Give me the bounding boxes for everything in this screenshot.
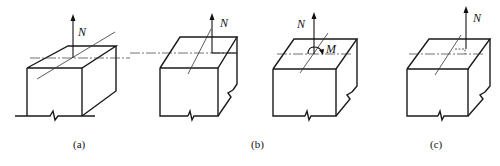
arrowhead-icon xyxy=(464,6,469,13)
eccentricity-offset-dashed xyxy=(455,49,465,54)
moment-label: M xyxy=(325,42,337,56)
force-label: N xyxy=(77,25,87,39)
block-b2-front-face xyxy=(273,69,305,116)
arrowhead-icon xyxy=(71,14,76,21)
block-c-front-face xyxy=(407,69,438,116)
panel-caption: (a) xyxy=(73,138,86,151)
centerline-y xyxy=(188,29,211,74)
force-label: N xyxy=(219,16,229,30)
panel-a: N (a) xyxy=(15,14,130,151)
block-b1-front-face xyxy=(160,68,188,116)
force-label: N xyxy=(296,17,306,31)
block-b2-side-break xyxy=(336,92,352,116)
panel-c: N (c) xyxy=(407,6,490,151)
loaded-blocks-diagram: N (a) N (b) N M xyxy=(0,0,500,166)
panel-caption: (c) xyxy=(430,138,443,151)
panel-b2: N M xyxy=(273,12,357,120)
block-c-bottom-break xyxy=(438,69,468,120)
block-b2-side-edge xyxy=(352,39,357,92)
arrowhead-icon xyxy=(312,12,317,19)
force-label: N xyxy=(472,11,482,25)
centerline-y xyxy=(37,32,115,79)
panel-b1: N (b) xyxy=(130,13,264,151)
block-b1-side-edge xyxy=(233,37,237,90)
block-b1-side-break xyxy=(218,90,233,116)
block-c-side-break xyxy=(468,92,485,116)
block-b1-bottom-break xyxy=(188,68,218,120)
block-b2-bottom-break xyxy=(305,69,336,120)
block-c-side-edge xyxy=(485,39,490,92)
block-a-top-face xyxy=(27,46,116,68)
arrowhead-icon xyxy=(210,13,215,20)
panel-caption: (b) xyxy=(251,138,264,151)
